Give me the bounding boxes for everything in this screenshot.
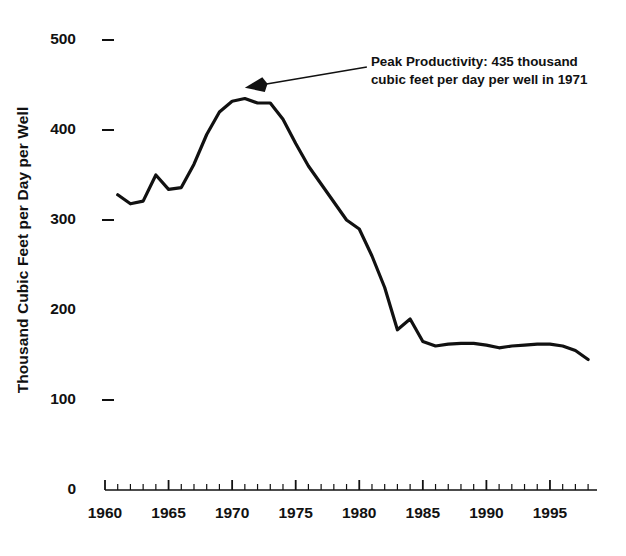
productivity-line-chart: Thousand Cubic Feet per Day per Well 010…	[0, 0, 626, 556]
y-tick-label-400: 400	[30, 120, 76, 138]
y-tick-label-500: 500	[30, 30, 76, 48]
annotation-arrowhead	[245, 77, 268, 92]
x-tick-label-1970: 1970	[202, 504, 262, 522]
x-tick-label-1985: 1985	[393, 504, 453, 522]
x-tick-label-1995: 1995	[520, 504, 580, 522]
y-tick-label-200: 200	[30, 300, 76, 318]
y-tick-label-0: 0	[30, 480, 76, 498]
x-tick-label-1980: 1980	[329, 504, 389, 522]
y-tick-label-100: 100	[30, 390, 76, 408]
peak-productivity-annotation: Peak Productivity: 435 thousand cubic fe…	[371, 53, 588, 89]
x-tick-label-1960: 1960	[75, 504, 135, 522]
x-tick-label-1975: 1975	[266, 504, 326, 522]
annotation-line-1: Peak Productivity: 435 thousand	[371, 53, 588, 71]
annotation-line-2: cubic feet per day per well in 1971	[371, 71, 588, 89]
x-tick-label-1990: 1990	[456, 504, 516, 522]
x-tick-label-1965: 1965	[139, 504, 199, 522]
y-tick-label-300: 300	[30, 210, 76, 228]
